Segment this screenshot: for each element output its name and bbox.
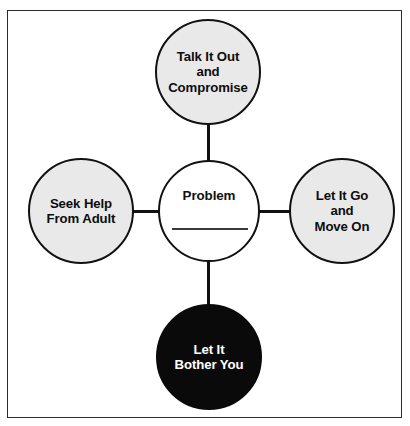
connector-center-to-bottom	[207, 258, 210, 308]
option-node-label: Let It Go and Move On	[315, 188, 370, 233]
option-node-seek-help[interactable]: Seek Help From Adult	[28, 158, 134, 264]
diagram-root: Talk It Out and Compromise Seek Help Fro…	[0, 0, 410, 426]
option-node-talk-it-out[interactable]: Talk It Out and Compromise	[155, 19, 261, 125]
option-node-let-it-go[interactable]: Let It Go and Move On	[289, 158, 395, 264]
center-node-problem[interactable]: Problem	[158, 160, 260, 262]
option-node-label: Seek Help From Adult	[47, 196, 116, 226]
problem-blank-write-in-line[interactable]	[172, 228, 248, 230]
center-node-label: Problem	[183, 188, 236, 203]
option-node-label: Let It Bother You	[175, 342, 244, 372]
option-node-label: Talk It Out and Compromise	[168, 49, 248, 94]
connector-center-to-top	[207, 118, 210, 166]
diagram-canvas: Talk It Out and Compromise Seek Help Fro…	[0, 0, 410, 426]
option-node-let-it-bother-you[interactable]: Let It Bother You	[156, 304, 262, 410]
